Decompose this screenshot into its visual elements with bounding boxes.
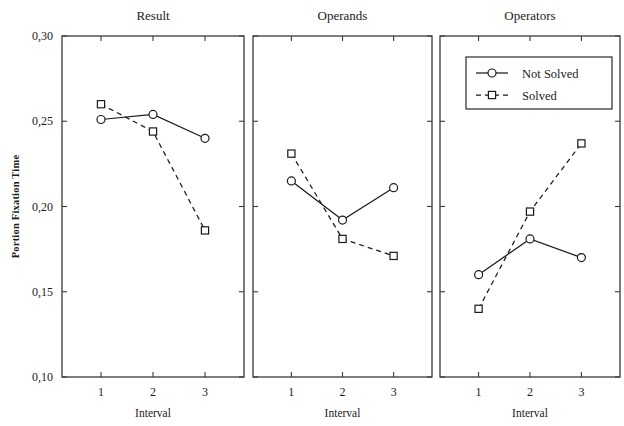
y-tick-label: 0,10 (32, 370, 53, 384)
data-point-marker[interactable] (149, 128, 156, 135)
panel-title-operands: Operands (318, 8, 368, 23)
data-point-marker[interactable] (475, 305, 482, 312)
data-point-marker[interactable] (201, 134, 209, 142)
x-tick-label: 2 (340, 385, 346, 399)
data-point-marker[interactable] (339, 235, 346, 242)
x-tick-label: 1 (476, 385, 482, 399)
legend-marker-circle (488, 69, 496, 77)
y-tick-label: 0,15 (32, 285, 53, 299)
legend-label-not-solved: Not Solved (522, 67, 579, 81)
x-tick-label: 2 (150, 385, 156, 399)
series-line-solved (101, 104, 205, 230)
data-point-marker[interactable] (475, 271, 483, 279)
data-point-marker[interactable] (526, 208, 533, 215)
y-tick-label: 0,30 (32, 29, 53, 43)
panel-frame (62, 36, 244, 377)
x-axis-title: Interval (512, 407, 548, 419)
data-point-marker[interactable] (339, 216, 347, 224)
chart-figure: Result0,100,150,200,250,30123IntervalOpe… (0, 0, 624, 426)
legend-marker-square (488, 91, 495, 98)
series-line-solved (479, 143, 582, 308)
data-point-marker[interactable] (97, 116, 105, 124)
data-point-marker[interactable] (577, 254, 585, 262)
x-tick-label: 3 (578, 385, 584, 399)
x-tick-label: 1 (288, 385, 294, 399)
data-point-marker[interactable] (526, 235, 534, 243)
legend: Not SolvedSolved (466, 57, 612, 109)
data-point-marker[interactable] (390, 252, 397, 259)
y-tick-label: 0,20 (32, 200, 53, 214)
panel-result: Result0,100,150,200,250,30123Interval (32, 8, 244, 419)
series-line-not-solved (291, 181, 393, 220)
data-point-marker[interactable] (97, 101, 104, 108)
y-tick-label: 0,25 (32, 114, 53, 128)
x-tick-label: 3 (391, 385, 397, 399)
data-point-marker[interactable] (390, 184, 398, 192)
data-point-marker[interactable] (288, 150, 295, 157)
series-line-not-solved (479, 239, 582, 275)
x-tick-label: 3 (202, 385, 208, 399)
panel-operands: Operands123Interval (253, 8, 432, 419)
y-axis-title: Portion Fixation Time (10, 155, 21, 259)
panel-title-operators: Operators (504, 8, 555, 23)
data-point-marker[interactable] (149, 110, 157, 118)
panel-frame (253, 36, 432, 377)
data-point-marker[interactable] (287, 177, 295, 185)
multi-panel-line-chart: Result0,100,150,200,250,30123IntervalOpe… (0, 0, 624, 426)
data-point-marker[interactable] (578, 140, 585, 147)
legend-label-solved: Solved (522, 89, 557, 103)
x-axis-title: Interval (325, 407, 361, 419)
panel-title-result: Result (136, 8, 170, 23)
data-point-marker[interactable] (201, 227, 208, 234)
x-tick-label: 1 (98, 385, 104, 399)
x-axis-title: Interval (135, 407, 171, 419)
x-tick-label: 2 (527, 385, 533, 399)
